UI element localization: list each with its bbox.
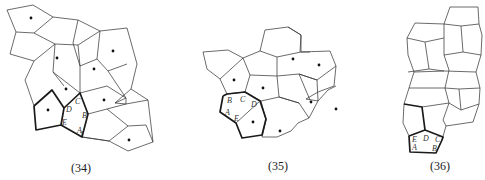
vertex-label-b: B bbox=[82, 111, 87, 120]
tiling-36: A B C D E (36) bbox=[403, 7, 482, 173]
vertex-label-e: E bbox=[233, 114, 239, 123]
tiling-36-edges bbox=[403, 7, 482, 140]
tiling-34: A B C D E (34) bbox=[7, 5, 153, 175]
vertex-label-a: A bbox=[76, 126, 82, 135]
vertex-label-b: B bbox=[432, 144, 437, 153]
vertex-label-d: D bbox=[65, 105, 72, 114]
vertex-label-c: C bbox=[75, 97, 81, 106]
vertex-label-b: B bbox=[227, 96, 232, 105]
tiling-35-centroid-dots bbox=[233, 58, 338, 133]
figure-caption-36: (36) bbox=[430, 159, 450, 173]
vertex-label-d: D bbox=[422, 134, 429, 143]
vertex-label-d: D bbox=[250, 100, 257, 109]
vertex-label-c: C bbox=[435, 135, 441, 144]
tiling-35: A B C D E (35) bbox=[203, 27, 337, 173]
figure-caption-35: (35) bbox=[268, 159, 288, 173]
figure-caption-34: (34) bbox=[71, 161, 91, 175]
vertex-label-a: A bbox=[224, 108, 230, 117]
tiling-36-vertex-labels: A B C D E bbox=[411, 134, 441, 153]
pentagon-tilings-figure: A B C D E (34) bbox=[0, 0, 485, 180]
vertex-label-a: A bbox=[411, 143, 417, 152]
vertex-label-c: C bbox=[240, 95, 246, 104]
tiling-35-edges bbox=[203, 27, 336, 137]
vertex-label-e: E bbox=[411, 135, 417, 144]
vertex-label-e: E bbox=[61, 118, 67, 127]
tiling-36-fundamental-region bbox=[404, 104, 443, 153]
